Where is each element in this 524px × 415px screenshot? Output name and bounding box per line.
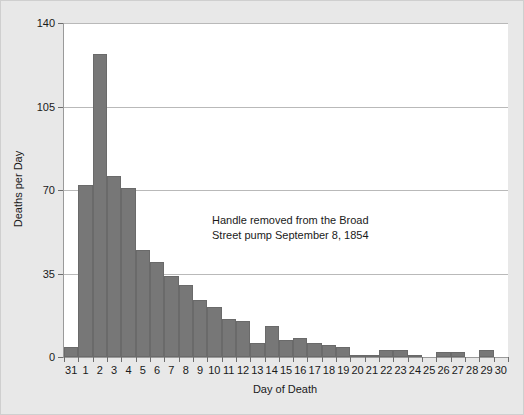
x-tick-mark xyxy=(307,357,308,362)
bar xyxy=(322,345,336,357)
bar xyxy=(64,347,78,357)
bar xyxy=(279,340,293,357)
bar xyxy=(250,343,264,357)
bar xyxy=(365,355,379,357)
x-tick-mark xyxy=(336,357,337,362)
x-tick-mark xyxy=(93,357,94,362)
x-tick-label: 2 xyxy=(97,364,103,376)
x-tick-label: 7 xyxy=(168,364,174,376)
x-axis-title: Day of Death xyxy=(63,383,507,395)
annotation-line-1: Handle removed from the Broad xyxy=(212,213,369,228)
x-tick-mark xyxy=(222,357,223,362)
x-tick-mark xyxy=(265,357,266,362)
y-tick-label: 35 xyxy=(43,268,55,280)
x-tick-mark xyxy=(236,357,237,362)
x-tick-label: 10 xyxy=(208,364,220,376)
x-tick-mark xyxy=(479,357,480,362)
y-tick-label: 140 xyxy=(37,17,55,29)
y-tick-label: 70 xyxy=(43,184,55,196)
x-tick-mark xyxy=(121,357,122,362)
x-tick-mark xyxy=(250,357,251,362)
y-tick-mark xyxy=(58,23,63,24)
bar xyxy=(193,300,207,357)
y-tick-label: 0 xyxy=(49,351,55,363)
x-tick-mark xyxy=(164,357,165,362)
x-tick-label: 26 xyxy=(437,364,449,376)
x-tick-label: 6 xyxy=(154,364,160,376)
x-tick-label: 12 xyxy=(237,364,249,376)
x-tick-mark xyxy=(408,357,409,362)
x-tick-label: 29 xyxy=(480,364,492,376)
bar xyxy=(336,347,350,357)
bar xyxy=(293,338,307,357)
y-tick-mark xyxy=(58,190,63,191)
bar xyxy=(265,326,279,357)
bar xyxy=(78,185,92,357)
x-tick-mark xyxy=(494,357,495,362)
x-tick-mark xyxy=(422,357,423,362)
x-tick-label: 13 xyxy=(251,364,263,376)
x-tick-label: 3 xyxy=(111,364,117,376)
x-tick-mark xyxy=(193,357,194,362)
y-tick-mark xyxy=(58,107,63,108)
bar xyxy=(379,350,393,357)
x-tick-label: 19 xyxy=(337,364,349,376)
x-tick-label: 16 xyxy=(294,364,306,376)
x-tick-label: 30 xyxy=(495,364,507,376)
x-tick-label: 11 xyxy=(223,364,234,376)
bar xyxy=(479,350,493,357)
x-tick-label: 28 xyxy=(466,364,478,376)
bar xyxy=(207,307,221,357)
bar xyxy=(307,343,321,357)
x-tick-label: 15 xyxy=(280,364,292,376)
x-tick-label: 4 xyxy=(125,364,131,376)
x-tick-label: 21 xyxy=(366,364,378,376)
x-tick-mark xyxy=(279,357,280,362)
x-tick-mark xyxy=(393,357,394,362)
x-tick-label: 9 xyxy=(197,364,203,376)
y-tick-mark xyxy=(58,357,63,358)
bar xyxy=(350,355,364,357)
bar xyxy=(408,355,422,357)
x-tick-label: 14 xyxy=(266,364,278,376)
chart-figure: Deaths per Day 03570105140 3112345678910… xyxy=(0,0,524,415)
bar xyxy=(236,321,250,357)
y-tick-label: 105 xyxy=(37,101,55,113)
x-tick-mark xyxy=(179,357,180,362)
x-tick-mark xyxy=(379,357,380,362)
pump-handle-annotation: Handle removed from the Broad Street pum… xyxy=(212,213,369,243)
x-tick-label: 31 xyxy=(65,364,77,376)
x-tick-mark xyxy=(365,357,366,362)
x-tick-label: 17 xyxy=(309,364,321,376)
x-tick-label: 23 xyxy=(394,364,406,376)
x-tick-label: 27 xyxy=(452,364,464,376)
x-tick-label: 24 xyxy=(409,364,421,376)
bar xyxy=(150,262,164,357)
x-tick-mark xyxy=(78,357,79,362)
x-tick-label: 8 xyxy=(183,364,189,376)
bar xyxy=(451,352,465,357)
x-tick-mark xyxy=(322,357,323,362)
bar xyxy=(93,54,107,357)
x-tick-label: 18 xyxy=(323,364,335,376)
bar xyxy=(164,276,178,357)
bar xyxy=(136,250,150,357)
annotation-line-2: Street pump September 8, 1854 xyxy=(212,228,369,243)
x-tick-mark xyxy=(64,357,65,362)
x-tick-mark xyxy=(136,357,137,362)
y-tick-mark xyxy=(58,274,63,275)
x-tick-mark xyxy=(451,357,452,362)
x-tick-label: 1 xyxy=(82,364,88,376)
x-tick-label: 22 xyxy=(380,364,392,376)
bar xyxy=(436,352,450,357)
x-tick-label: 25 xyxy=(423,364,435,376)
bar xyxy=(107,176,121,357)
bar xyxy=(121,188,135,357)
x-tick-mark xyxy=(150,357,151,362)
bar-series xyxy=(64,23,508,357)
x-tick-label: 20 xyxy=(351,364,363,376)
plot-area: 03570105140 3112345678910111213141516171… xyxy=(63,23,508,358)
x-tick-mark xyxy=(436,357,437,362)
x-tick-mark xyxy=(107,357,108,362)
x-tick-label: 5 xyxy=(140,364,146,376)
